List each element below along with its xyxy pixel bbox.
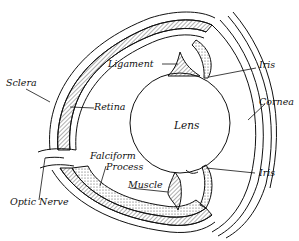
label-ligament: Ligament	[108, 59, 154, 69]
label-iris-top: Iris	[259, 60, 275, 70]
label-process: Process	[106, 162, 143, 172]
label-sclera: Sclera	[6, 78, 37, 88]
label-lens: Lens	[174, 120, 199, 131]
label-muscle: Muscle	[128, 180, 163, 190]
label-iris-bottom: Iris	[259, 168, 275, 178]
label-optic-nerve: Optic Nerve	[10, 197, 69, 207]
label-retina: Retina	[94, 102, 125, 112]
label-falciform: Falciform	[90, 151, 136, 161]
eye-diagram: Sclera Retina Ligament Iris Cornea Lens …	[0, 0, 299, 241]
label-cornea: Cornea	[259, 97, 294, 107]
